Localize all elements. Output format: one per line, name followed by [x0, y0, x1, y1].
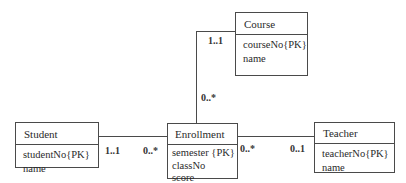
- class-enrollment: Enrollment semester {PK} classNo score: [167, 123, 238, 179]
- class-course-attributes: courseNo{PK} name: [236, 35, 307, 66]
- mult-enrollment-student-side: 0..*: [143, 145, 158, 156]
- mult-student-side: 1..1: [105, 145, 120, 156]
- attribute: studentNo{PK}: [23, 148, 98, 162]
- class-student-title: Student: [16, 123, 98, 145]
- mult-enrollment-teacher-side: 0..*: [240, 143, 255, 154]
- assoc-enrollment-teacher-line: [237, 136, 314, 137]
- assoc-course-enrollment-vertical-line: [196, 31, 197, 123]
- attribute: classNo: [172, 160, 237, 173]
- assoc-course-enrollment-horizontal-line: [196, 31, 235, 32]
- mult-teacher-side: 0..1: [290, 143, 305, 154]
- class-student: Student studentNo{PK} name: [15, 122, 99, 168]
- class-teacher: Teacher teacherNo{PK} name: [314, 122, 395, 173]
- attribute: teacherNo{PK}: [322, 147, 394, 161]
- attribute: semester {PK}: [172, 147, 237, 160]
- attribute: name: [23, 162, 98, 176]
- class-teacher-attributes: teacherNo{PK} name: [315, 144, 394, 175]
- class-teacher-title: Teacher: [315, 123, 394, 144]
- mult-course-side: 1..1: [208, 35, 223, 46]
- class-course: Course courseNo{PK} name: [235, 12, 308, 76]
- class-student-attributes: studentNo{PK} name: [16, 145, 98, 176]
- attribute: name: [322, 161, 394, 175]
- class-course-title: Course: [236, 13, 307, 35]
- assoc-student-enrollment-line: [98, 136, 167, 137]
- mult-enrollment-course-side: 0..*: [201, 92, 216, 103]
- attribute: score: [172, 172, 237, 183]
- class-enrollment-attributes: semester {PK} classNo score: [168, 145, 237, 183]
- attribute: name: [243, 52, 307, 66]
- attribute: courseNo{PK}: [243, 38, 307, 52]
- class-enrollment-title: Enrollment: [168, 124, 237, 145]
